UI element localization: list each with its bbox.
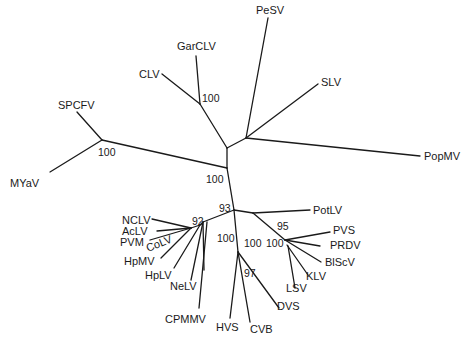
taxa-labels: PeSV GarCLV CLV SLV SPCFV PopMV MYaV NCL… xyxy=(10,4,461,335)
taxon-prdv: PRDV xyxy=(330,239,361,251)
taxon-blscv: BlScV xyxy=(325,256,356,268)
taxon-pvm: PVM xyxy=(120,236,144,248)
taxon-garclv: GarCLV xyxy=(177,40,217,52)
taxon-popmv: PopMV xyxy=(424,150,461,162)
bootstrap-values: 100 100 100 93 92 95 100 100 100 97 xyxy=(98,92,289,279)
bootstrap-100b: 100 xyxy=(244,237,262,249)
taxon-lsv: LSV xyxy=(286,282,307,294)
taxon-hvs: HVS xyxy=(216,321,239,333)
phylogenetic-tree: PeSV GarCLV CLV SLV SPCFV PopMV MYaV NCL… xyxy=(0,0,466,342)
taxon-nelv: NeLV xyxy=(170,280,197,292)
taxon-cvb: CVB xyxy=(250,323,273,335)
taxon-hpmv: HpMV xyxy=(124,255,155,267)
taxon-potlv: PotLV xyxy=(313,204,343,216)
taxon-dvs: DVS xyxy=(277,300,300,312)
taxon-spcfv: SPCFV xyxy=(58,99,95,111)
bootstrap-garclv-clv: 100 xyxy=(202,92,220,104)
bootstrap-100a: 100 xyxy=(217,232,235,244)
taxon-myav: MYaV xyxy=(10,177,40,189)
bootstrap-95: 95 xyxy=(277,220,289,232)
taxon-hplv: HpLV xyxy=(145,269,172,281)
taxon-colv: CoLV xyxy=(144,232,174,253)
taxon-slv: SLV xyxy=(321,76,342,88)
bootstrap-spcfv-myav: 100 xyxy=(98,146,116,158)
bootstrap-100c: 100 xyxy=(266,237,284,249)
bootstrap-93: 93 xyxy=(219,202,231,214)
bootstrap-97: 97 xyxy=(244,267,256,279)
taxon-klv: KLV xyxy=(306,270,327,282)
taxon-pesv: PeSV xyxy=(256,4,285,16)
taxon-pvs: PVS xyxy=(333,224,355,236)
tree-branches xyxy=(50,18,420,322)
bootstrap-central: 100 xyxy=(206,173,224,185)
taxon-clv: CLV xyxy=(139,68,160,80)
bootstrap-92: 92 xyxy=(192,215,204,227)
taxon-cpmmv: CPMMV xyxy=(165,313,207,325)
